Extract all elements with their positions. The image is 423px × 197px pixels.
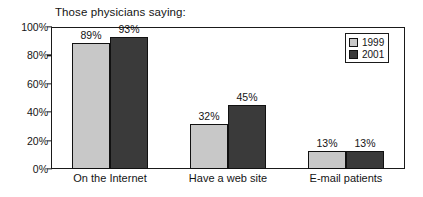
bar-value-label: 89% (80, 29, 101, 41)
bar-value-label: 32% (198, 110, 219, 122)
bar-value-label: 13% (316, 137, 337, 149)
bar (190, 124, 228, 169)
legend-swatch-icon (349, 50, 358, 59)
chart-legend: 19992001 (345, 33, 389, 63)
legend-entry: 1999 (349, 36, 384, 48)
bar-value-label: 93% (118, 23, 139, 35)
legend-swatch-icon (349, 38, 358, 47)
bar (110, 37, 148, 169)
bar (72, 43, 110, 169)
y-axis: 100%80%60%40%20%0% (0, 27, 51, 169)
legend-label: 2001 (362, 49, 384, 60)
x-axis-category-label: E-mail patients (310, 172, 383, 184)
bar-chart: Those physicians saying: 100%80%60%40%20… (0, 0, 423, 197)
legend-label: 1999 (362, 37, 384, 48)
bar (346, 151, 384, 169)
x-axis-category-label: Have a web site (189, 172, 267, 184)
bar (228, 105, 266, 169)
bar-value-label: 45% (236, 91, 257, 103)
bar (308, 151, 346, 169)
bar-value-label: 13% (354, 137, 375, 149)
x-axis-category-label: On the Internet (73, 172, 146, 184)
legend-entry: 2001 (349, 48, 384, 60)
chart-title: Those physicians saying: (55, 6, 186, 18)
